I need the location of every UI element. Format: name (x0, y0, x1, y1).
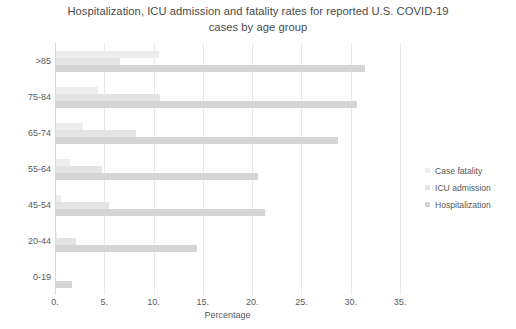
bar-group (56, 79, 400, 115)
plot-area (55, 43, 400, 295)
y-axis-category-label: 55-64 (3, 164, 51, 174)
x-axis-tick-labels: 0.5.10.15.20.25.30.35. (55, 297, 400, 311)
x-axis-tick-label: 0. (51, 297, 59, 307)
bar (56, 58, 120, 65)
legend-swatch-icon (425, 202, 430, 207)
gridline (400, 43, 401, 295)
y-axis-labels: >8575-8465-7455-6445-5420-440-19 (0, 43, 51, 295)
bar (56, 87, 98, 94)
x-axis-tick-label: 15. (197, 297, 210, 307)
bar (56, 65, 365, 72)
bar-group (56, 115, 400, 151)
bar-group (56, 151, 400, 187)
y-axis-category-label: 0-19 (3, 272, 51, 282)
bar-group (56, 259, 400, 295)
bar (56, 137, 338, 144)
y-axis-category-label: 65-74 (3, 128, 51, 138)
bar (56, 123, 83, 130)
bar (56, 130, 136, 137)
y-axis-category-label: 75-84 (3, 92, 51, 102)
legend-swatch-icon (425, 185, 430, 190)
x-axis-tick-label: 35. (394, 297, 407, 307)
bar-group (56, 223, 400, 259)
bar-group (56, 187, 400, 223)
legend-item[interactable]: ICU admission (425, 180, 513, 195)
bar (56, 281, 72, 288)
bar (56, 231, 57, 238)
legend-label: Hospitalization (435, 200, 491, 210)
bar (56, 166, 102, 173)
bar (56, 101, 357, 108)
y-axis-category-label: 20-44 (3, 236, 51, 246)
bar (56, 238, 76, 245)
x-axis-tick-label: 10. (147, 297, 160, 307)
legend-item[interactable]: Hospitalization (425, 197, 513, 212)
chart-container: Hospitalization, ICU admission and fatal… (0, 0, 516, 329)
chart-legend: Case fatalityICU admissionHospitalizatio… (425, 163, 513, 214)
bar (56, 51, 159, 58)
x-axis-tick-label: 20. (246, 297, 259, 307)
bar (56, 173, 258, 180)
legend-label: Case fatality (435, 166, 482, 176)
legend-label: ICU admission (435, 183, 491, 193)
bar (56, 209, 265, 216)
x-axis-tick-label: 30. (344, 297, 357, 307)
bar (56, 245, 197, 252)
x-axis-title: Percentage (55, 310, 400, 320)
bar (56, 202, 109, 209)
bar-group (56, 43, 400, 79)
bar (56, 94, 160, 101)
y-axis-category-label: 45-54 (3, 200, 51, 210)
bar (56, 159, 70, 166)
bar (56, 195, 61, 202)
legend-item[interactable]: Case fatality (425, 163, 513, 178)
y-axis-category-label: >85 (3, 56, 51, 66)
x-axis-tick-label: 5. (101, 297, 109, 307)
chart-title: Hospitalization, ICU admission and fatal… (56, 4, 460, 35)
x-axis-tick-label: 25. (295, 297, 308, 307)
legend-swatch-icon (425, 168, 430, 173)
